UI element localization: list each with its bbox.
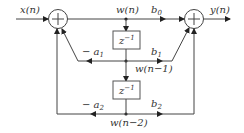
delay-box-1: z−1 [113,31,140,49]
right-adder [185,10,204,29]
output-label: y(n) [209,4,230,15]
b1-label: b1 [151,46,162,59]
left-adder [49,10,68,29]
input-label: x(n) [20,4,40,15]
b2-label: b2 [151,98,162,111]
a1-label: − a1 [82,46,104,59]
filter-diagram: x(n) w(n) b0 y(n) z−1 − a1 b1 [0,0,244,133]
w-n-1-label: w(n−1) [135,63,173,74]
a2-arrow-icon [90,111,96,117]
a1-arrow-icon [86,58,92,64]
w-n-2-label: w(n−2) [110,117,148,128]
b2-arrow-icon [157,111,163,117]
w-n-label: w(n) [116,4,139,15]
b0-label: b0 [151,4,162,17]
delay-box-2: z−1 [113,81,140,99]
a2-label: − a2 [82,99,105,112]
